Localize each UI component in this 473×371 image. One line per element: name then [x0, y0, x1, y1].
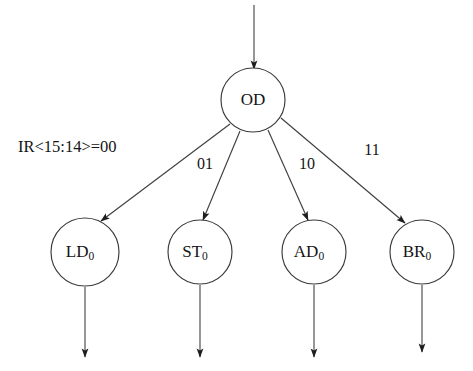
node-br0[interactable]: BR0	[390, 220, 454, 284]
node-ad0-label-sub: 0	[318, 250, 324, 262]
node-ld0-label-main: LD	[66, 242, 89, 261]
edge-label-ad0: 10	[299, 155, 315, 172]
node-br0-label-main: BR	[403, 242, 426, 261]
node-st0-label-sub: 0	[202, 250, 208, 262]
node-st0[interactable]: ST0	[168, 220, 232, 284]
node-ad0[interactable]: AD0	[282, 220, 346, 284]
edge-label-ld0: IR<15:14>=00	[18, 137, 117, 156]
node-br0-label-sub: 0	[425, 250, 431, 262]
node-ld0[interactable]: LD0	[51, 218, 119, 286]
node-od[interactable]: OD	[221, 68, 285, 132]
node-od-label: OD	[241, 90, 266, 109]
edge-to-st0	[203, 131, 240, 220]
edge-group	[101, 118, 405, 223]
edge-label-br0: 11	[364, 141, 379, 158]
node-ad0-label-main: AD	[294, 242, 319, 261]
edge-to-ad0	[268, 130, 308, 220]
edge-to-ld0	[101, 124, 230, 221]
state-transition-diagram: OD LD0 ST0 AD0 BR0	[0, 0, 473, 371]
node-ld0-label-sub: 0	[88, 250, 94, 262]
edge-label-st0: 01	[197, 155, 213, 172]
node-st0-label-main: ST	[182, 242, 202, 261]
edge-label-group: IR<15:14>=00 01 10 11	[18, 137, 380, 172]
exit-arrow-group	[85, 285, 422, 357]
diagram-root: OD LD0 ST0 AD0 BR0	[0, 0, 473, 371]
